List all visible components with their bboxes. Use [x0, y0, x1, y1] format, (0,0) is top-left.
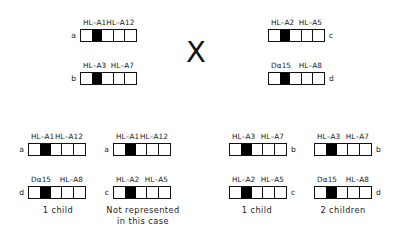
locus-label-left: Dα15 — [317, 175, 337, 185]
chromosome-bar — [314, 186, 372, 199]
bar-cell-1 — [230, 187, 241, 198]
locus-label-left: HL–A2 — [116, 175, 139, 185]
parent-haplotype-d: Dα15 HL–A8 d — [268, 72, 325, 85]
bar-cell-2 — [241, 187, 252, 198]
bar-cell-1 — [269, 30, 280, 41]
bar-cell-4 — [61, 144, 73, 155]
locus-label-row: HL–A3 HL–A7 — [229, 132, 287, 143]
bar-cell-3 — [337, 144, 348, 155]
bar-cell-2 — [326, 187, 337, 198]
bar-cell-1 — [315, 144, 326, 155]
bar-cell-5 — [359, 187, 371, 198]
locus-label-right: HL–A7 — [346, 132, 369, 142]
locus-label-right: HL–A5 — [299, 18, 322, 28]
locus-label-left: HL–A2 — [271, 18, 294, 28]
offspring-bd-haplotype-b: HL–A3 HL–A7 b — [314, 143, 372, 156]
locus-label-right: HL–A8 — [346, 175, 369, 185]
bar-cell-2 — [125, 144, 136, 155]
chromosome-bar — [229, 143, 287, 156]
haplotype-letter: b — [71, 73, 76, 85]
bar-cell-2 — [40, 187, 51, 198]
bar-cell-1 — [81, 30, 92, 41]
haplotype-letter: c — [329, 30, 333, 42]
bar-cell-4 — [262, 187, 274, 198]
locus-label-row: Dα15 HL–A8 — [28, 175, 86, 186]
haplotype-cross-diagram: HL–A1 HL–A12 a HL–A3 HL–A7 b X H — [0, 0, 399, 235]
haplotype-letter: d — [376, 187, 381, 199]
offspring-bc-caption: 1 child — [219, 205, 295, 216]
bar-cell-3 — [102, 30, 113, 41]
bar-cell-2 — [92, 30, 103, 41]
offspring-bd-caption: 2 children — [302, 205, 384, 216]
offspring-ac-caption: Not represented in this case — [102, 205, 184, 227]
offspring-ad-haplotype-a: HL–A1 HL–A12 a — [28, 143, 86, 156]
bar-cell-5 — [158, 144, 170, 155]
bar-cell-2 — [241, 144, 252, 155]
bar-cell-5 — [124, 30, 136, 41]
bar-cell-2 — [40, 144, 51, 155]
locus-label-right: HL–A5 — [261, 175, 284, 185]
bar-cell-4 — [347, 187, 359, 198]
bar-cell-3 — [51, 144, 62, 155]
bar-cell-5 — [359, 144, 371, 155]
bar-cell-4 — [301, 73, 313, 84]
bar-cell-3 — [136, 187, 147, 198]
locus-label-left: HL–A1 — [116, 132, 139, 142]
bar-cell-1 — [29, 144, 40, 155]
chromosome-bar — [268, 72, 325, 85]
locus-label-row: HL–A1 HL–A12 — [80, 18, 137, 29]
offspring-ad-haplotype-d: Dα15 HL–A8 d — [28, 186, 86, 199]
bar-cell-3 — [290, 30, 301, 41]
bar-cell-2 — [326, 144, 337, 155]
parent-haplotype-c: HL–A2 HL–A5 c — [268, 29, 325, 42]
chromosome-bar — [80, 72, 137, 85]
bar-cell-5 — [73, 187, 85, 198]
bar-cell-5 — [312, 73, 324, 84]
offspring-bc-haplotype-c: HL–A2 HL–A5 c — [229, 186, 287, 199]
locus-label-row: HL–A1 HL–A12 — [28, 132, 86, 143]
offspring-ac-haplotype-a: HL–A1 HL–A12 a — [113, 143, 171, 156]
bar-cell-2 — [280, 30, 291, 41]
haplotype-letter: d — [329, 73, 334, 85]
haplotype-letter: a — [19, 144, 24, 156]
chromosome-bar — [314, 143, 372, 156]
parent-haplotype-a: HL–A1 HL–A12 a — [80, 29, 137, 42]
locus-label-row: HL–A2 HL–A5 — [268, 18, 325, 29]
locus-label-right: HL–A7 — [261, 132, 284, 142]
haplotype-letter: b — [376, 144, 381, 156]
bar-cell-1 — [269, 73, 280, 84]
bar-cell-4 — [262, 144, 274, 155]
offspring-bc-haplotype-b: HL–A3 HL–A7 b — [229, 143, 287, 156]
bar-cell-1 — [315, 187, 326, 198]
bar-cell-4 — [61, 187, 73, 198]
bar-cell-5 — [158, 187, 170, 198]
bar-cell-3 — [51, 187, 62, 198]
bar-cell-2 — [280, 73, 291, 84]
locus-label-right: HL–A12 — [140, 132, 168, 142]
bar-cell-4 — [301, 30, 313, 41]
locus-label-left: HL–A2 — [232, 175, 255, 185]
bar-cell-3 — [252, 144, 263, 155]
chromosome-bar — [80, 29, 137, 42]
bar-cell-5 — [73, 144, 85, 155]
bar-cell-4 — [347, 144, 359, 155]
bar-cell-4 — [146, 187, 158, 198]
bar-cell-4 — [146, 144, 158, 155]
bar-cell-3 — [102, 73, 113, 84]
locus-label-row: HL–A2 HL–A5 — [113, 175, 171, 186]
bar-cell-1 — [114, 144, 125, 155]
bar-cell-5 — [312, 30, 324, 41]
locus-label-right: HL–A8 — [60, 175, 83, 185]
locus-label-right: HL–A12 — [55, 132, 83, 142]
locus-label-left: HL–A3 — [83, 61, 106, 71]
chromosome-bar — [113, 186, 171, 199]
locus-label-row: HL–A1 HL–A12 — [113, 132, 171, 143]
offspring-ad-caption: 1 child — [20, 205, 96, 216]
bar-cell-2 — [125, 187, 136, 198]
haplotype-letter: a — [71, 30, 76, 42]
bar-cell-4 — [113, 30, 125, 41]
haplotype-letter: d — [19, 187, 24, 199]
locus-label-row: Dα15 HL–A8 — [268, 61, 325, 72]
bar-cell-1 — [29, 187, 40, 198]
bar-cell-1 — [81, 73, 92, 84]
